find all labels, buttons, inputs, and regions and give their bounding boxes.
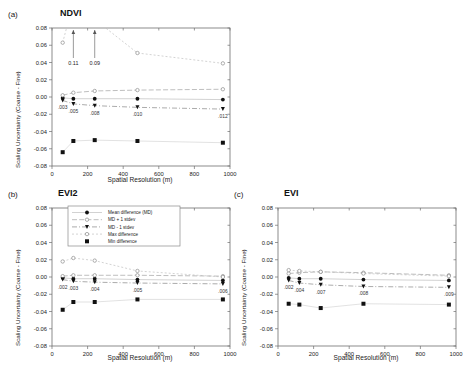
svg-text:0: 0 — [50, 351, 53, 357]
svg-text:-0.08: -0.08 — [260, 343, 273, 349]
svg-text:0: 0 — [276, 351, 279, 357]
svg-text:.002: .002 — [58, 285, 68, 290]
svg-text:Max difference: Max difference — [108, 232, 138, 237]
svg-text:0.08: 0.08 — [36, 25, 47, 31]
panel-a-plot: 02004006008001000-0.08-0.06-0.04-0.020.0… — [0, 0, 240, 190]
svg-text:200: 200 — [83, 171, 93, 177]
svg-text:.003: .003 — [69, 286, 79, 291]
svg-text:800: 800 — [416, 351, 426, 357]
svg-text:1000: 1000 — [224, 171, 237, 177]
svg-text:.009: .009 — [444, 292, 454, 297]
panel-b-plot: 02004006008001000-0.08-0.06-0.04-0.020.0… — [0, 186, 240, 375]
svg-text:0: 0 — [50, 171, 53, 177]
svg-text:800: 800 — [190, 171, 200, 177]
svg-text:-0.02: -0.02 — [260, 291, 273, 297]
svg-text:600: 600 — [154, 351, 164, 357]
svg-text:.002: .002 — [284, 285, 294, 290]
svg-text:.003: .003 — [58, 105, 68, 110]
svg-text:200: 200 — [83, 351, 93, 357]
svg-text:0.11: 0.11 — [68, 60, 78, 66]
svg-text:600: 600 — [380, 351, 390, 357]
svg-text:0.06: 0.06 — [262, 222, 273, 228]
svg-text:0.06: 0.06 — [36, 222, 47, 228]
svg-text:Mean difference (MD): Mean difference (MD) — [108, 210, 153, 215]
panel-c-plot: 02004006008001000-0.08-0.06-0.04-0.020.0… — [226, 186, 466, 375]
svg-text:.010: .010 — [133, 112, 143, 117]
svg-text:-0.06: -0.06 — [260, 326, 273, 332]
panel-c: (c) EVI Scaling Uncertainty (Coarse - Fi… — [226, 186, 466, 375]
svg-text:.007: .007 — [316, 290, 326, 295]
svg-text:-0.08: -0.08 — [34, 163, 47, 169]
svg-text:1000: 1000 — [450, 351, 463, 357]
svg-text:400: 400 — [118, 171, 128, 177]
svg-text:0.06: 0.06 — [36, 42, 47, 48]
svg-text:0.04: 0.04 — [36, 240, 48, 246]
svg-text:600: 600 — [154, 171, 164, 177]
svg-text:0.02: 0.02 — [36, 257, 47, 263]
figure-container: (a) NDVI Scaling Uncertainty (Coarse - F… — [0, 0, 466, 375]
svg-text:.005: .005 — [69, 109, 79, 114]
svg-text:MD + 1 stdev: MD + 1 stdev — [108, 217, 136, 222]
panel-a: (a) NDVI Scaling Uncertainty (Coarse - F… — [0, 0, 240, 190]
svg-text:.008: .008 — [90, 111, 100, 116]
svg-text:-0.06: -0.06 — [34, 146, 47, 152]
svg-text:0.04: 0.04 — [262, 240, 274, 246]
svg-text:-0.04: -0.04 — [34, 309, 48, 315]
svg-text:.004: .004 — [295, 288, 305, 293]
panel-b: (b) EVI2 Scaling Uncertainty (Coarse - F… — [0, 186, 240, 375]
svg-text:0.09: 0.09 — [89, 60, 100, 66]
svg-text:400: 400 — [344, 351, 354, 357]
svg-text:0.04: 0.04 — [36, 60, 48, 66]
svg-text:200: 200 — [309, 351, 319, 357]
svg-text:0.08: 0.08 — [36, 205, 47, 211]
svg-text:0.02: 0.02 — [36, 77, 47, 83]
svg-text:-0.02: -0.02 — [34, 291, 47, 297]
svg-text:-0.06: -0.06 — [34, 326, 47, 332]
svg-text:MD - 1 stdev: MD - 1 stdev — [108, 225, 135, 230]
svg-text:Min difference: Min difference — [108, 239, 137, 244]
svg-text:.012: .012 — [218, 114, 228, 119]
svg-text:0.02: 0.02 — [262, 257, 273, 263]
svg-text:.004: .004 — [90, 287, 100, 292]
svg-text:-0.04: -0.04 — [34, 129, 48, 135]
svg-text:0.08: 0.08 — [262, 205, 273, 211]
svg-text:-0.04: -0.04 — [260, 309, 274, 315]
svg-text:0.00: 0.00 — [36, 94, 47, 100]
svg-text:0.00: 0.00 — [262, 274, 273, 280]
svg-text:800: 800 — [190, 351, 200, 357]
svg-text:-0.02: -0.02 — [34, 111, 47, 117]
svg-text:0.00: 0.00 — [36, 274, 47, 280]
svg-text:.008: .008 — [359, 291, 369, 296]
svg-text:400: 400 — [118, 351, 128, 357]
svg-text:.005: .005 — [133, 288, 143, 293]
svg-text:-0.08: -0.08 — [34, 343, 47, 349]
